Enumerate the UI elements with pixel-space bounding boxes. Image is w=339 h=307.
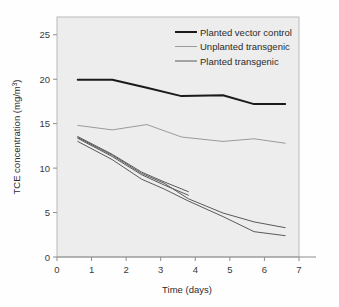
y-tick-label: 15: [39, 118, 50, 129]
x-tick-label: 5: [227, 264, 232, 275]
legend-label: Unplanted transgenic: [200, 41, 290, 52]
svg-text:TCE concentration (mg/m3): TCE concentration (mg/m3): [11, 79, 23, 194]
figure-container: 0510152025 01234567 Time (days) TCE conc…: [0, 0, 339, 307]
y-axis-tick-labels: 0510152025: [39, 29, 50, 262]
legend-label: Planted transgenic: [200, 56, 279, 67]
x-axis-tick-labels: 01234567: [54, 264, 301, 275]
x-tick-label: 0: [54, 264, 59, 275]
chart-legend: Planted vector controlUnplanted transgen…: [175, 27, 292, 67]
y-axis-title: TCE concentration (mg/m3): [11, 79, 23, 194]
y-tick-label: 25: [39, 29, 50, 40]
x-axis-ticks: [57, 257, 299, 261]
plot-area-background: [57, 17, 299, 257]
x-tick-label: 6: [262, 264, 267, 275]
y-tick-label: 5: [45, 207, 50, 218]
x-tick-label: 1: [89, 264, 94, 275]
y-tick-label: 10: [39, 163, 50, 174]
legend-label: Planted vector control: [200, 27, 292, 38]
x-tick-label: 3: [158, 264, 163, 275]
x-axis-title: Time (days): [162, 284, 212, 295]
y-tick-label: 20: [39, 74, 50, 85]
y-axis-ticks: [53, 35, 57, 257]
x-tick-label: 2: [123, 264, 128, 275]
y-axis-title-tail: ): [11, 79, 22, 82]
x-tick-label: 7: [296, 264, 301, 275]
y-tick-label: 0: [45, 252, 50, 263]
y-axis-title-main: TCE concentration (mg/m: [11, 86, 22, 194]
line-chart: 0510152025 01234567 Time (days) TCE conc…: [0, 0, 339, 307]
x-tick-label: 4: [193, 264, 198, 275]
